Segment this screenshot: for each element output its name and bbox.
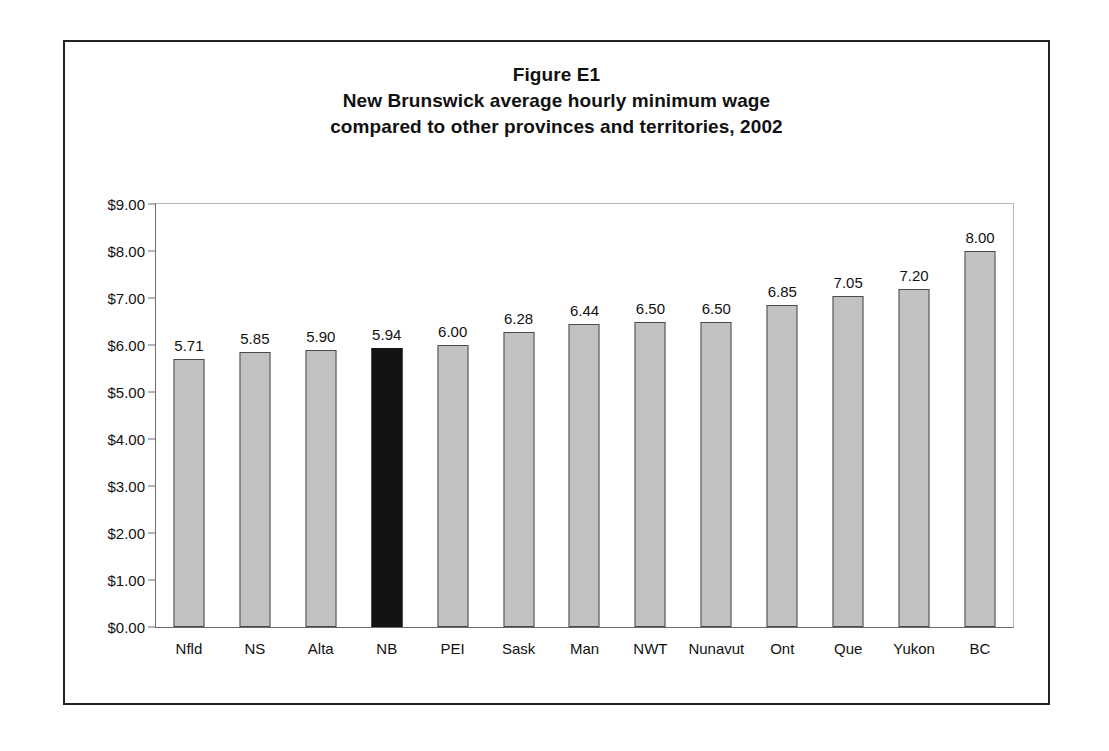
bar-series: 5.71Nfld5.85NS5.90Alta5.94NB6.00PEI6.28S… (156, 204, 1013, 627)
bar-pei[interactable] (437, 345, 468, 627)
bar-que[interactable] (833, 296, 864, 627)
bar-value-label: 6.00 (438, 323, 467, 340)
bar-slot: 5.90Alta (288, 204, 354, 627)
bar-value-label: 6.50 (636, 300, 665, 317)
bar-slot: 6.50Nunavut (683, 204, 749, 627)
bar-bc[interactable] (965, 251, 996, 627)
bar-nwt[interactable] (635, 322, 666, 628)
x-axis-label-ont: Ont (770, 640, 794, 657)
figure-frame: Figure E1 New Brunswick average hourly m… (63, 40, 1050, 705)
bar-slot: 5.94NB (354, 204, 420, 627)
y-axis-tick-label: $0.00 (107, 619, 156, 636)
y-axis-tick-label: $1.00 (107, 572, 156, 589)
bar-alta[interactable] (305, 350, 336, 627)
bar-value-label: 6.50 (702, 300, 731, 317)
x-axis-label-alta: Alta (308, 640, 334, 657)
bar-yukon[interactable] (899, 289, 930, 627)
bar-slot: 6.28Sask (486, 204, 552, 627)
bar-value-label: 6.85 (768, 283, 797, 300)
bar-slot: 7.20Yukon (881, 204, 947, 627)
x-axis-label-nwt: NWT (633, 640, 667, 657)
bar-slot: 6.44Man (552, 204, 618, 627)
bar-slot: 5.85NS (222, 204, 288, 627)
bar-slot: 6.50NWT (617, 204, 683, 627)
bar-slot: 7.05Que (815, 204, 881, 627)
bar-value-label: 7.20 (899, 267, 928, 284)
bar-ont[interactable] (767, 305, 798, 627)
y-axis-tick-label: $3.00 (107, 478, 156, 495)
bar-nfld[interactable] (173, 359, 204, 627)
x-axis-label-man: Man (570, 640, 599, 657)
x-axis-label-nb: NB (376, 640, 397, 657)
chart-title-line-2: New Brunswick average hourly minimum wag… (65, 88, 1048, 114)
chart-title: Figure E1 New Brunswick average hourly m… (65, 62, 1048, 140)
bar-nunavut[interactable] (701, 322, 732, 628)
plot-area: $0.00$1.00$2.00$3.00$4.00$5.00$6.00$7.00… (155, 203, 1014, 628)
y-axis-tick-label: $6.00 (107, 337, 156, 354)
y-axis-tick-label: $2.00 (107, 525, 156, 542)
x-axis-label-nfld: Nfld (176, 640, 203, 657)
y-axis-tick-label: $8.00 (107, 243, 156, 260)
y-axis-tick-label: $7.00 (107, 290, 156, 307)
y-axis-tick-label: $9.00 (107, 196, 156, 213)
bar-man[interactable] (569, 324, 600, 627)
bar-value-label: 7.05 (834, 274, 863, 291)
bar-value-label: 6.28 (504, 310, 533, 327)
y-axis-tick-label: $4.00 (107, 431, 156, 448)
bar-ns[interactable] (239, 352, 270, 627)
bar-slot: 8.00BC (947, 204, 1013, 627)
x-axis-label-yukon: Yukon (893, 640, 935, 657)
chart-title-line-1: Figure E1 (65, 62, 1048, 88)
x-axis-label-sask: Sask (502, 640, 535, 657)
bar-value-label: 5.85 (240, 330, 269, 347)
bar-slot: 6.00PEI (420, 204, 486, 627)
bar-slot: 5.71Nfld (156, 204, 222, 627)
y-axis-tick-label: $5.00 (107, 384, 156, 401)
bar-sask[interactable] (503, 332, 534, 627)
bar-value-label: 5.94 (372, 326, 401, 343)
x-axis-label-bc: BC (970, 640, 991, 657)
x-axis-label-ns: NS (244, 640, 265, 657)
bar-value-label: 5.71 (174, 337, 203, 354)
chart-title-line-3: compared to other provinces and territor… (65, 114, 1048, 140)
bar-value-label: 5.90 (306, 328, 335, 345)
bar-value-label: 8.00 (965, 229, 994, 246)
x-axis-label-que: Que (834, 640, 862, 657)
bar-nb[interactable] (371, 348, 402, 627)
x-axis-label-pei: PEI (441, 640, 465, 657)
bar-slot: 6.85Ont (749, 204, 815, 627)
x-axis-label-nunavut: Nunavut (688, 640, 744, 657)
bar-value-label: 6.44 (570, 302, 599, 319)
